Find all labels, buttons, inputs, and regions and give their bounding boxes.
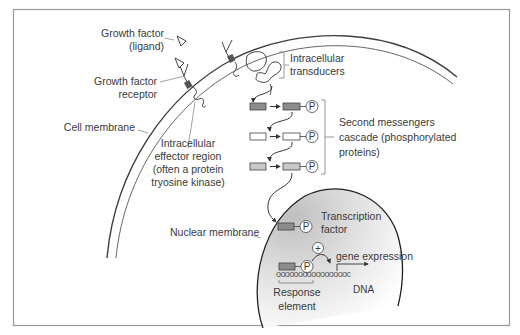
label-transcription-factor-1: Transcription: [321, 210, 381, 222]
second-messenger-cascade: P P P: [250, 101, 318, 173]
label-transducers-1: Intracellular: [290, 52, 345, 64]
growth-factor-receptor-2: [222, 40, 239, 76]
plus-sign: +: [315, 243, 321, 254]
dna-helix: ooooooooooooooooc: [276, 269, 351, 279]
cascade-row-2: P: [250, 131, 318, 143]
label-response-element-1: Response: [273, 286, 320, 298]
signal-transduction-diagram: P P P P: [0, 0, 520, 335]
label-growth-factor-receptor-2: receptor: [118, 88, 157, 100]
label-second-messengers-3: proteins): [339, 146, 380, 158]
label-effector-1: Intracellular: [161, 137, 216, 149]
label-growth-factor-receptor-1: Growth factor: [94, 75, 158, 87]
label-gene-expression: gene expression: [336, 250, 413, 262]
cascade-bracket: [321, 100, 334, 174]
ligand-bound-icon: [175, 58, 184, 68]
label-nuclear-membrane: Nuclear membrane: [170, 226, 259, 238]
label-effector-2: effector region: [155, 150, 222, 162]
phosphate-label: P: [309, 101, 316, 112]
label-second-messengers-1: Second messengers: [339, 116, 435, 128]
phosphate-label: P: [303, 221, 310, 232]
label-dna: DNA: [353, 284, 374, 295]
phosphate-label: P: [309, 131, 316, 142]
label-transducers-2: transducers: [290, 65, 345, 77]
ligand-free-icon: [177, 36, 186, 46]
label-response-element-2: element: [278, 300, 315, 312]
label-effector-3: (often a protein: [153, 163, 224, 175]
label-growth-factor-ligand-2: (ligand): [129, 40, 164, 52]
label-effector-4: tryosine kinase): [151, 176, 225, 188]
cascade-row-3: P: [250, 161, 318, 173]
cascade-row-1: P: [250, 101, 318, 113]
label-growth-factor-ligand-1: Growth factor: [101, 27, 165, 39]
label-transcription-factor-2: factor: [321, 223, 348, 235]
phosphate-label: P: [309, 161, 316, 172]
label-second-messengers-2: cascade (phosphorylated: [339, 131, 456, 143]
transducer-to-cascade-arrow: [253, 86, 272, 102]
label-cell-membrane: Cell membrane: [64, 121, 135, 133]
dna-helix-glyphs: ooooooooooooooooc: [276, 269, 351, 279]
